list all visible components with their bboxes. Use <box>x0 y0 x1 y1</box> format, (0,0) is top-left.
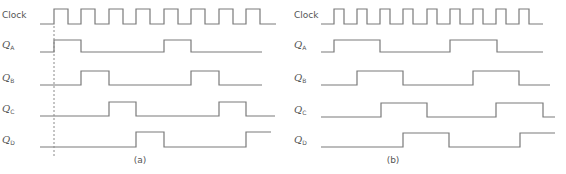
waveform <box>321 103 555 117</box>
signal-label: QA <box>294 39 307 51</box>
signal-label: QD <box>294 134 307 146</box>
waveform <box>40 40 262 52</box>
signal-qc: QC <box>294 103 555 117</box>
signal-label: QD <box>2 134 15 146</box>
clock-label: Clock <box>294 10 319 20</box>
waveform <box>321 133 555 147</box>
waveform <box>40 9 276 24</box>
waveform <box>321 9 543 24</box>
signal-label: QC <box>294 104 306 116</box>
signal-clock: Clock <box>294 9 543 24</box>
signal-qa: QA <box>2 39 262 52</box>
clock-label: Clock <box>2 10 27 20</box>
diagram-b: ClockQAQBQCQD(b) <box>294 9 555 165</box>
timing-diagram: ClockQAQBQCQD(a) ClockQAQBQCQD(b) <box>0 0 566 174</box>
signal-label: QB <box>294 72 306 84</box>
signal-qb: QB <box>294 71 550 85</box>
waveform <box>321 40 543 52</box>
signal-qd: QD <box>294 133 555 147</box>
waveform <box>40 71 262 85</box>
signal-label: QB <box>2 72 14 84</box>
waveform <box>40 132 271 147</box>
signal-clock: Clock <box>2 9 276 24</box>
signal-qc: QC <box>2 102 275 116</box>
waveform <box>321 71 550 85</box>
caption: (a) <box>134 155 147 165</box>
diagram-a: ClockQAQBQCQD(a) <box>2 9 276 165</box>
signal-qa: QA <box>294 39 543 52</box>
signal-qd: QD <box>2 132 271 147</box>
signal-qb: QB <box>2 71 262 85</box>
waveform <box>40 102 275 116</box>
signal-label: QA <box>2 39 15 51</box>
caption: (b) <box>387 155 400 165</box>
signal-label: QC <box>2 103 14 115</box>
